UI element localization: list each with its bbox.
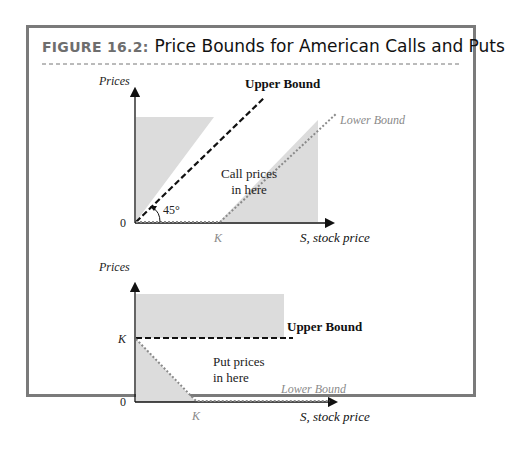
put-x-axis-label: S, stock price	[300, 409, 370, 424]
call-y-axis-label: Prices	[98, 74, 130, 88]
put-lower-bound-label: Lower Bound	[280, 382, 347, 396]
call-lower-bound-label: Lower Bound	[339, 113, 406, 127]
put-y-axis-label: Prices	[98, 260, 130, 274]
call-chart: 45° Prices Upper Bound Lower Bound Call …	[98, 74, 406, 245]
put-strike-x-label: K	[191, 409, 201, 423]
put-chart: Prices Upper Bound Lower Bound Put price…	[98, 260, 370, 424]
put-upper-bound-label: Upper Bound	[287, 319, 363, 334]
put-strike-y-label: K	[117, 332, 127, 346]
call-x-axis-label: S, stock price	[300, 230, 370, 245]
call-strike-label: K	[213, 231, 223, 245]
call-upper-bound-label: Upper Bound	[245, 76, 321, 91]
put-region-label-2: in here	[213, 370, 249, 385]
call-origin-label: 0	[120, 216, 126, 230]
put-region-label-1: Put prices	[213, 354, 265, 369]
angle-label: 45°	[163, 203, 180, 217]
put-origin-label: 0	[120, 395, 126, 409]
call-region-label-2: in here	[231, 182, 267, 197]
call-region-label-1: Call prices	[221, 166, 277, 181]
put-upper-excluded-region	[136, 294, 284, 338]
